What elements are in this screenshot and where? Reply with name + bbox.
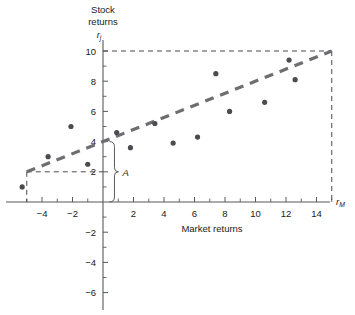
x-tick-label: 4 [161, 208, 166, 219]
x-tick-label: 2 [131, 208, 136, 219]
annotations: A [109, 142, 128, 202]
scatter-plot: Stock returns rj rM Market returns −4−22… [0, 0, 355, 315]
data-point [46, 154, 51, 159]
regression-line [27, 51, 332, 172]
data-point [286, 57, 291, 62]
data-point [213, 71, 218, 76]
y-tick-label: 6 [91, 106, 96, 117]
x-axis-title: Market returns [181, 223, 242, 234]
x-tick-label: 6 [192, 208, 197, 219]
data-point [262, 100, 267, 105]
data-point [128, 145, 133, 150]
data-point [195, 134, 200, 139]
y-tick-label: −6 [85, 287, 96, 298]
y-tick-label: 8 [91, 76, 96, 87]
x-tick-label: 8 [222, 208, 227, 219]
data-point [171, 141, 176, 146]
y-tick-label: 10 [85, 46, 96, 57]
data-point [152, 121, 157, 126]
x-tick-label: 12 [281, 208, 292, 219]
y-axis-title-line2: returns [88, 16, 118, 27]
y-axis-symbol: rj [97, 29, 102, 42]
axis-tick-labels: −4−22468101214246810−2−4−6 [37, 46, 322, 299]
y-tick-label: −4 [85, 257, 96, 268]
x-tick-label: −2 [67, 208, 78, 219]
chart-container: Stock returns rj rM Market returns −4−22… [0, 0, 355, 315]
data-point [68, 124, 73, 129]
x-axis-symbol: rM [336, 196, 345, 208]
data-points [20, 57, 298, 189]
y-axis-title-line1: Stock [91, 4, 115, 15]
x-tick-label: 14 [311, 208, 322, 219]
data-point [20, 184, 25, 189]
y-tick-label: −2 [85, 227, 96, 238]
data-point [227, 109, 232, 114]
x-tick-label: 10 [250, 208, 261, 219]
data-point [114, 130, 119, 135]
data-point [85, 162, 90, 167]
annotation-label-a: A [121, 167, 128, 178]
data-point [293, 77, 298, 82]
x-tick-label: −4 [37, 208, 48, 219]
